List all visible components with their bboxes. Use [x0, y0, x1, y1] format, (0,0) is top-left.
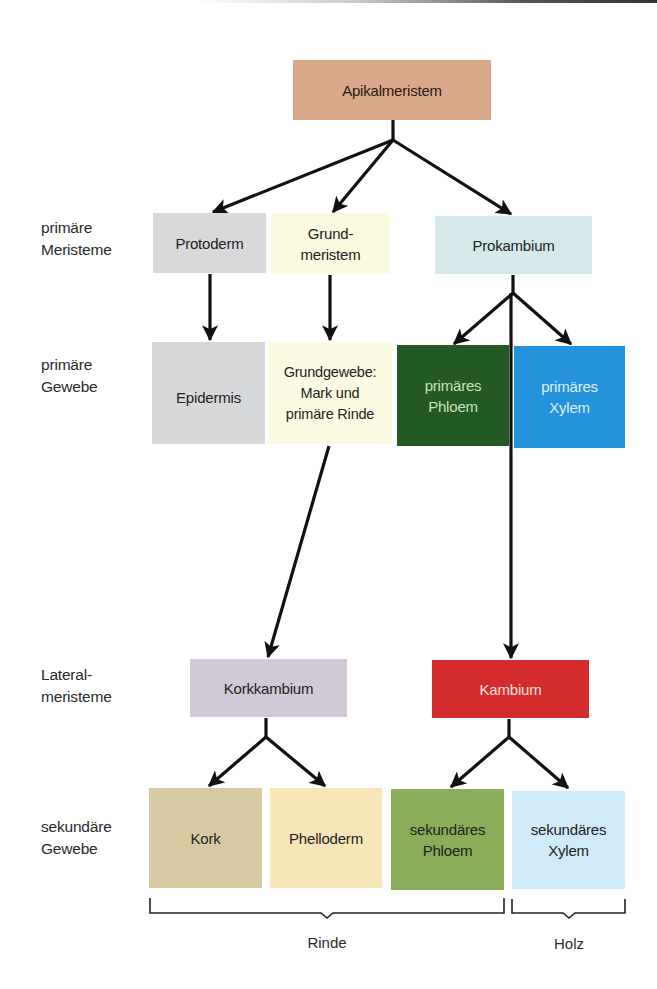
node-label: Kambium — [480, 679, 542, 700]
edge-kambium-sek-phloem — [451, 737, 509, 787]
node-primaeres-phloem: primäres Phloem — [397, 345, 509, 446]
row-label-primaere-meristeme: primäre Meristeme — [41, 217, 112, 261]
node-label: Apikalmeristem — [342, 80, 442, 101]
row-label-line: Gewebe — [41, 376, 98, 398]
edge-kambium-sek-xylem — [509, 737, 568, 788]
node-label: Kork — [190, 828, 220, 849]
node-label: meristem — [300, 244, 360, 265]
row-label-sekundaere-gewebe: sekundäre Gewebe — [41, 816, 112, 860]
bracket-holz — [512, 899, 625, 918]
row-label-line: Gewebe — [41, 838, 112, 860]
edge-apikal-prokambium — [393, 140, 511, 214]
edge-grundgewebe-korkkambium — [268, 446, 329, 657]
edge-apikal-grundmeristem — [333, 140, 393, 212]
edge-korkkambium-phelloderm — [266, 737, 325, 786]
node-prokambium: Prokambium — [435, 216, 592, 274]
node-kambium: Kambium — [432, 660, 589, 718]
node-epidermis: Epidermis — [152, 342, 265, 444]
row-label-lateralmeristeme: Lateral- meristeme — [41, 664, 112, 708]
node-label: Phloem — [423, 840, 473, 861]
top-edge-shadow — [0, 0, 657, 3]
edge-prokambium-phloem — [454, 293, 513, 344]
row-label-line: meristeme — [41, 686, 112, 708]
node-label: Phelloderm — [289, 828, 363, 849]
node-label: Epidermis — [176, 387, 241, 408]
node-label: Prokambium — [472, 235, 554, 256]
node-label: Grund- — [308, 223, 354, 244]
row-label-primaere-gewebe: primäre Gewebe — [41, 354, 98, 398]
group-label-holz: Holz — [539, 935, 599, 952]
row-label-line: primäre — [41, 217, 112, 239]
group-label-rinde: Rinde — [287, 934, 367, 951]
node-label: primäre Rinde — [286, 404, 374, 425]
node-label: Korkkambium — [224, 678, 314, 699]
node-label: Mark und — [301, 383, 360, 404]
node-label: Xylem — [548, 840, 589, 861]
node-primaeres-xylem: primäres Xylem — [514, 346, 625, 448]
node-korkkambium: Korkkambium — [190, 659, 347, 717]
node-grundgewebe: Grundgewebe: Mark und primäre Rinde — [268, 342, 392, 444]
node-label: sekundäres — [531, 819, 607, 840]
node-grundmeristem: Grund- meristem — [271, 213, 390, 274]
node-kork: Kork — [149, 788, 262, 888]
node-label: Phloem — [428, 396, 478, 417]
row-label-line: Meristeme — [41, 239, 112, 261]
node-label: primäres — [425, 375, 482, 396]
bracket-rinde — [150, 898, 504, 918]
node-label: sekundäres — [410, 819, 486, 840]
node-phelloderm: Phelloderm — [270, 788, 382, 888]
node-sekundaeres-phloem: sekundäres Phloem — [391, 789, 504, 890]
node-protoderm: Protoderm — [153, 213, 266, 273]
node-label: Xylem — [549, 397, 590, 418]
node-sekundaeres-xylem: sekundäres Xylem — [512, 791, 625, 889]
edge-korkkambium-kork — [209, 737, 266, 786]
row-label-line: sekundäre — [41, 816, 112, 838]
row-label-line: primäre — [41, 354, 98, 376]
node-label: Protoderm — [175, 233, 243, 254]
row-label-line: Lateral- — [41, 664, 112, 686]
node-apikalmeristem: Apikalmeristem — [293, 60, 491, 120]
edge-apikal-protoderm — [213, 140, 393, 212]
edge-prokambium-xylem — [513, 293, 571, 344]
node-label: primäres — [541, 376, 598, 397]
node-label: Grundgewebe: — [284, 362, 377, 383]
